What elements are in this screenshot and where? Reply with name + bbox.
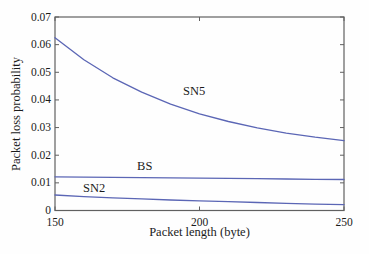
x-axis-title: Packet length (byte): [55, 225, 344, 240]
series-label-BS: BS: [137, 159, 152, 173]
y-tick-label: 0.04: [31, 93, 51, 105]
series-label-SN5: SN5: [183, 84, 205, 98]
y-tick-label: 0: [45, 204, 51, 216]
y-tick-label: 0.02: [31, 149, 51, 161]
chart-figure: 15020025000.010.020.030.040.050.060.07SN…: [0, 0, 369, 254]
y-axis-title: Packet loss probability: [9, 57, 24, 171]
y-tick-label: 0.03: [31, 121, 51, 133]
y-tick-label: 0.06: [31, 38, 51, 50]
y-tick-label: 0.07: [31, 11, 51, 23]
y-tick-label: 0.05: [31, 66, 51, 78]
series-label-SN2: SN2: [83, 181, 105, 195]
plot-canvas: 15020025000.010.020.030.040.050.060.07SN…: [0, 0, 369, 254]
series-BS: [55, 177, 344, 180]
y-tick-label: 0.01: [31, 176, 51, 188]
series-SN2: [55, 195, 344, 205]
